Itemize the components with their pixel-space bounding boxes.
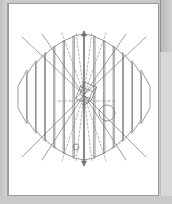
app-root — [0, 0, 172, 204]
window-bottom-edge — [0, 196, 172, 204]
blade-right-2 — [94, 36, 105, 157]
wireframe-scene — [9, 4, 158, 195]
center-snap-point — [83, 104, 86, 107]
blade-left-7 — [18, 70, 27, 124]
radial-line-4 — [84, 37, 146, 95]
blade-right-7 — [141, 70, 150, 124]
blade-right-5 — [123, 53, 133, 142]
construction-circle — [99, 105, 115, 121]
radial-line-0 — [22, 37, 84, 95]
blade-left-2 — [63, 36, 74, 157]
blade-left-6 — [27, 61, 36, 134]
blade-left-5 — [36, 53, 46, 142]
panel-divider-bottom[interactable] — [160, 52, 172, 204]
window-left-edge — [0, 0, 7, 204]
blade-right-6 — [132, 61, 141, 134]
axis-arrowhead-bottom — [82, 161, 87, 166]
panel-divider-top[interactable] — [160, 0, 172, 52]
wireframe-viewport[interactable] — [8, 3, 159, 196]
axis-arrowhead-top — [82, 31, 87, 36]
